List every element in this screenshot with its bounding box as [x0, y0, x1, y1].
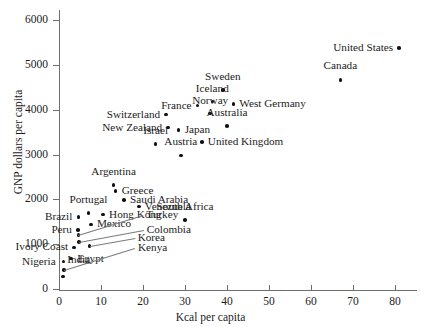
- x-tick: [101, 285, 102, 291]
- point-label: Nigeria: [22, 256, 56, 267]
- point-label: Japan: [185, 124, 210, 135]
- x-tick: [395, 285, 396, 291]
- data-point[interactable]: [232, 102, 236, 106]
- y-tick: [53, 110, 60, 111]
- data-point[interactable]: [101, 213, 105, 217]
- data-point[interactable]: [89, 223, 93, 227]
- point-label: India: [67, 255, 90, 266]
- y-tick: [53, 199, 60, 200]
- x-tick-label: 80: [375, 296, 415, 308]
- y-tick-label: 4000: [0, 104, 48, 116]
- point-label: United States: [333, 42, 393, 53]
- point-label: Ivory Coast: [16, 242, 69, 253]
- data-point[interactable]: [76, 228, 80, 232]
- x-tick-label: 50: [249, 296, 289, 308]
- x-tick-label: 60: [291, 296, 331, 308]
- x-tick-label: 40: [207, 296, 247, 308]
- point-label: Kenya: [138, 242, 167, 253]
- point-label: Argentina: [91, 166, 136, 177]
- x-tick: [269, 285, 270, 291]
- y-tick-label: 3000: [0, 149, 48, 161]
- point-label: Australia: [206, 108, 247, 119]
- x-tick: [353, 285, 354, 291]
- x-tick-label: 20: [123, 296, 163, 308]
- y-tick-label: 2000: [0, 193, 48, 205]
- data-point[interactable]: [164, 113, 168, 117]
- point-label: United Kingdom: [208, 136, 284, 147]
- point-label: Norway: [192, 95, 228, 106]
- y-axis-title: GNP dollars per capita: [12, 42, 24, 242]
- point-label: Turkey: [146, 210, 178, 221]
- y-tick-label: 6000: [0, 14, 48, 26]
- x-tick: [59, 285, 60, 291]
- x-tick-label: 70: [333, 296, 373, 308]
- point-label: Austria: [164, 137, 197, 148]
- y-tick: [53, 155, 60, 156]
- data-point[interactable]: [339, 78, 343, 82]
- point-label: Sweden: [205, 71, 240, 82]
- y-tick-label: 5000: [0, 59, 48, 71]
- data-point[interactable]: [87, 211, 91, 215]
- data-point[interactable]: [179, 154, 183, 158]
- data-point[interactable]: [62, 260, 66, 264]
- point-label: France: [161, 100, 191, 111]
- point-label: Canada: [324, 60, 358, 71]
- data-point[interactable]: [177, 128, 181, 132]
- y-tick-label: 0: [0, 283, 48, 295]
- x-tick: [143, 285, 144, 291]
- point-label: West Germany: [239, 99, 306, 110]
- data-point[interactable]: [72, 246, 76, 250]
- data-point[interactable]: [200, 140, 204, 144]
- x-tick: [227, 285, 228, 291]
- point-label: Peru: [51, 225, 72, 236]
- data-point[interactable]: [112, 183, 116, 187]
- data-point[interactable]: [183, 218, 187, 222]
- data-point[interactable]: [154, 142, 158, 146]
- x-axis-line: [59, 290, 417, 291]
- data-point[interactable]: [77, 215, 81, 219]
- x-tick-label: 0: [39, 296, 79, 308]
- point-label: Brazil: [45, 211, 72, 222]
- data-point[interactable]: [122, 198, 126, 202]
- point-label: Iceland: [196, 83, 229, 94]
- x-tick-label: 10: [81, 296, 121, 308]
- data-point[interactable]: [114, 189, 118, 193]
- point-label: Switzerland: [107, 109, 160, 120]
- y-tick: [53, 20, 60, 21]
- x-axis-title: Kcal per capita: [0, 311, 421, 323]
- point-label: Portugal: [69, 195, 107, 206]
- data-point[interactable]: [225, 124, 229, 128]
- scatter-plot: 0100020003000400050006000 01020304050607…: [0, 0, 421, 327]
- data-point[interactable]: [397, 46, 401, 50]
- y-tick: [53, 65, 60, 66]
- data-point[interactable]: [61, 275, 65, 279]
- x-tick: [185, 285, 186, 291]
- x-tick-label: 30: [165, 296, 205, 308]
- x-tick: [311, 285, 312, 291]
